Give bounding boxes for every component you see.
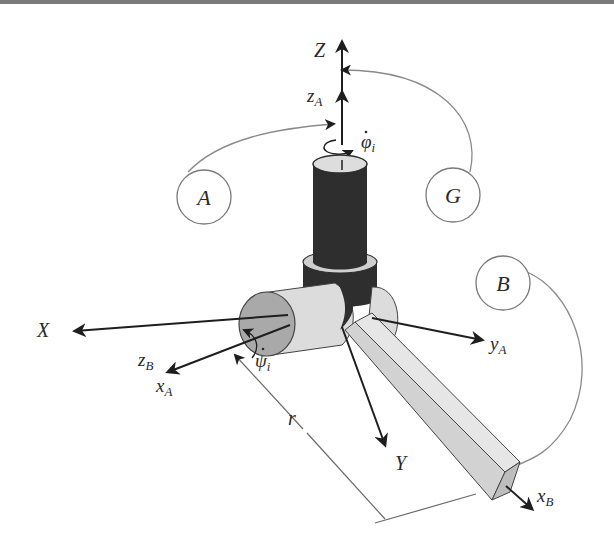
label-X: X bbox=[36, 319, 50, 341]
label-xA: xA bbox=[155, 375, 172, 399]
label-zB: zB bbox=[137, 349, 153, 373]
psi-dot-mark bbox=[262, 348, 265, 351]
label-Y: Y bbox=[395, 452, 408, 474]
label-r: r bbox=[288, 407, 296, 429]
xb-axis bbox=[506, 486, 532, 509]
label-phi-dot: φi bbox=[361, 131, 376, 155]
coordinate-diagram: A G B Z zA φi X zB xA ψi r Y yA xB bbox=[0, 0, 614, 553]
svg-text:G: G bbox=[445, 183, 461, 208]
label-xB: xB bbox=[536, 485, 553, 509]
phi-rotation-arrow bbox=[324, 140, 352, 154]
callout-A: A bbox=[177, 170, 231, 224]
label-Z: Z bbox=[314, 39, 326, 61]
label-zA: zA bbox=[306, 85, 322, 109]
callout-B: B bbox=[476, 256, 530, 310]
callout-G: G bbox=[426, 168, 480, 222]
svg-text:B: B bbox=[496, 271, 509, 296]
phi-dot-mark bbox=[365, 131, 368, 134]
svg-text:A: A bbox=[195, 185, 211, 210]
label-yA: yA bbox=[488, 333, 506, 357]
